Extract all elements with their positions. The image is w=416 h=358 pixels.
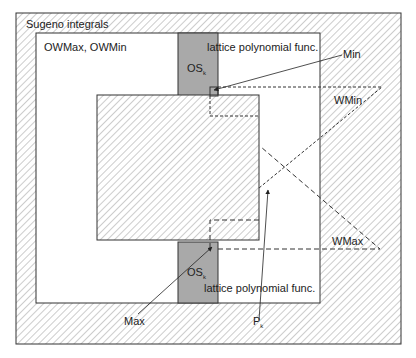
- label-sugeno: Sugeno integrals: [26, 18, 109, 30]
- label-owmax: OWMax, OWMin: [44, 41, 127, 53]
- label-wmin: WMin: [334, 94, 362, 106]
- label-max: Max: [124, 315, 145, 327]
- label-lattice-top: lattice polynomial func.: [207, 41, 318, 53]
- sugeno-diagram: Sugeno integrals OWMax, OWMin lattice po…: [0, 0, 416, 358]
- label-wmax: WMax: [332, 235, 364, 247]
- inner-hatched-region: [97, 95, 259, 240]
- label-min: Min: [343, 48, 361, 60]
- label-lattice-bottom: lattice polynomial func.: [204, 282, 315, 294]
